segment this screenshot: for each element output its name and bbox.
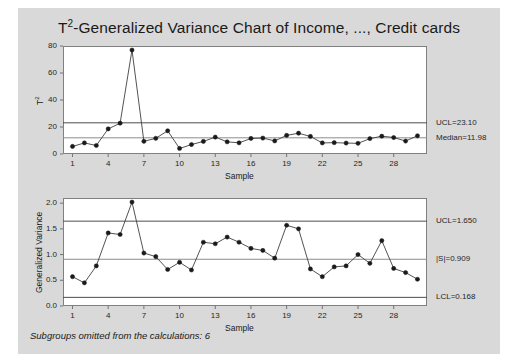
limit-label-ucl: UCL=1.650: [436, 216, 477, 225]
chart-title: T2-Generalized Variance Chart of Income,…: [18, 18, 500, 37]
data-point: [130, 48, 134, 52]
data-point: [403, 270, 407, 274]
data-point: [201, 240, 205, 244]
x-axis-title: Sample: [225, 171, 254, 181]
data-point: [189, 142, 193, 146]
data-point: [82, 281, 86, 285]
y-tick-label: 80: [18, 41, 57, 50]
t2-plot-svg: [18, 38, 500, 178]
data-point: [94, 143, 98, 147]
data-point: [154, 136, 158, 140]
figure-panel: T2-Generalized Variance Chart of Income,…: [18, 8, 500, 354]
x-tick-label: 22: [308, 311, 336, 320]
data-point: [70, 144, 74, 148]
data-point: [415, 134, 419, 138]
data-point: [296, 227, 300, 231]
data-point: [70, 275, 74, 279]
limit-label-median: Median=11.98: [436, 133, 486, 142]
x-tick-label: 4: [94, 159, 122, 168]
data-point: [368, 137, 372, 141]
data-point: [308, 134, 312, 138]
series-line: [73, 50, 418, 148]
data-point: [118, 232, 122, 236]
x-tick-label: 10: [166, 159, 194, 168]
data-point: [142, 251, 146, 255]
x-tick-label: 19: [273, 311, 301, 320]
y-tick-label: 20: [18, 122, 57, 131]
data-point: [189, 268, 193, 272]
t2-control-chart: UCL=23.10Median=11.980204060801471013161…: [18, 38, 500, 178]
x-tick-label: 13: [201, 159, 229, 168]
data-point: [166, 267, 170, 271]
data-point: [380, 134, 384, 138]
y-tick-label: 0.0: [18, 301, 57, 310]
data-point: [415, 277, 419, 281]
data-point: [403, 139, 407, 143]
x-tick-label: 13: [201, 311, 229, 320]
x-tick-label: 10: [166, 311, 194, 320]
data-point: [82, 141, 86, 145]
y-tick-label: 0: [18, 149, 57, 158]
data-point: [94, 264, 98, 268]
x-tick-label: 7: [130, 311, 158, 320]
data-point: [285, 133, 289, 137]
chart-page: T2-Generalized Variance Chart of Income,…: [0, 0, 518, 362]
data-point: [130, 200, 134, 204]
x-tick-label: 7: [130, 159, 158, 168]
y-axis-title: T2: [34, 96, 45, 105]
x-tick-label: 16: [237, 311, 265, 320]
x-tick-label: 28: [380, 311, 408, 320]
data-point: [320, 141, 324, 145]
data-point: [392, 135, 396, 139]
data-point: [237, 240, 241, 244]
data-point: [249, 246, 253, 250]
x-axis-title: Sample: [225, 323, 254, 333]
data-point: [106, 231, 110, 235]
data-point: [118, 121, 122, 125]
data-point: [320, 275, 324, 279]
data-point: [225, 140, 229, 144]
limit-label-ucl: UCL=23.10: [436, 118, 477, 127]
data-point: [261, 248, 265, 252]
data-point: [332, 265, 336, 269]
data-point: [344, 141, 348, 145]
omitted-subgroups-note: Subgroups omitted from the calculations:…: [30, 330, 210, 341]
data-point: [356, 252, 360, 256]
y-axis-title-superscript: 2: [34, 96, 40, 99]
y-axis-title-text: T: [35, 99, 45, 104]
x-tick-label: 22: [308, 159, 336, 168]
data-point: [308, 267, 312, 271]
data-point: [177, 146, 181, 150]
data-point: [368, 261, 372, 265]
data-point: [296, 131, 300, 135]
x-tick-label: 1: [59, 311, 87, 320]
data-point: [201, 139, 205, 143]
x-tick-label: 28: [380, 159, 408, 168]
data-point: [142, 139, 146, 143]
data-point: [273, 256, 277, 260]
data-point: [356, 141, 360, 145]
x-tick-label: 16: [237, 159, 265, 168]
data-point: [332, 141, 336, 145]
x-tick-label: 25: [344, 159, 372, 168]
data-point: [166, 129, 170, 133]
data-point: [225, 235, 229, 239]
data-point: [344, 264, 348, 268]
data-point: [154, 255, 158, 259]
data-point: [273, 139, 277, 143]
data-point: [177, 260, 181, 264]
series-line: [73, 202, 418, 283]
y-tick-label: 60: [18, 68, 57, 77]
x-tick-label: 4: [94, 311, 122, 320]
data-point: [237, 141, 241, 145]
data-point: [261, 136, 265, 140]
generalized-variance-control-chart: UCL=1.650|S|=0.909LCL=0.1680.00.51.01.52…: [18, 190, 500, 330]
data-point: [213, 135, 217, 139]
x-tick-label: 1: [59, 159, 87, 168]
x-tick-label: 19: [273, 159, 301, 168]
x-tick-label: 25: [344, 311, 372, 320]
y-tick-label: 2.0: [18, 198, 57, 207]
data-point: [285, 223, 289, 227]
limit-label-center: |S|=0.909: [436, 254, 470, 263]
data-point: [213, 242, 217, 246]
